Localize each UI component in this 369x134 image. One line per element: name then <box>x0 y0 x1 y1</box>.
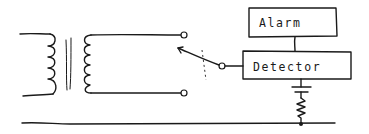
switch-mechanical-link <box>202 50 206 80</box>
circuit-diagram: Alarm Detector <box>0 0 369 134</box>
primary-coil <box>48 34 56 94</box>
alarm-label: Alarm <box>259 16 302 30</box>
detector-label: Detector <box>253 60 321 74</box>
primary-bottom-lead <box>23 94 53 96</box>
transformer-core-line-1 <box>66 40 67 90</box>
resistor <box>297 98 305 124</box>
junction-dot <box>299 122 303 126</box>
switch-terminal-common <box>219 63 225 69</box>
secondary-coil <box>84 35 91 93</box>
switch-arm <box>178 48 219 65</box>
switch-terminal-lower <box>181 90 187 96</box>
transformer-core-line-2 <box>70 38 71 89</box>
ground-rail <box>22 123 335 124</box>
switch-terminal-upper <box>181 32 187 38</box>
